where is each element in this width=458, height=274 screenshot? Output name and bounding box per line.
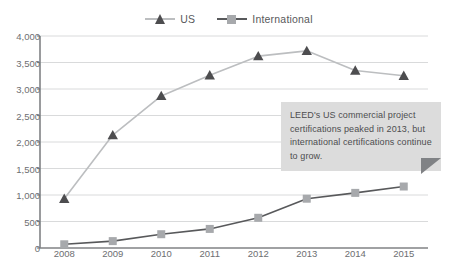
line-chart: US International 05001,0001,5002,0002,50… xyxy=(0,0,458,274)
data-point-marker xyxy=(156,91,166,100)
y-tick-label: 2,000 xyxy=(4,137,40,148)
x-tick-label: 2015 xyxy=(384,248,424,259)
annotation-callout-tail-icon xyxy=(421,158,441,174)
data-point-marker xyxy=(206,225,214,233)
data-point-marker xyxy=(400,183,408,191)
y-tick-label: 2,500 xyxy=(4,110,40,121)
x-tick-label: 2008 xyxy=(44,248,84,259)
annotation-callout-text: LEED's US commercial project certificati… xyxy=(290,109,432,163)
data-point-marker xyxy=(350,65,360,74)
x-tick-label: 2009 xyxy=(93,248,133,259)
y-tick-label: 1,000 xyxy=(4,190,40,201)
y-tick-label: 4,000 xyxy=(4,31,40,42)
x-axis: 20082009201020112012201320142015 xyxy=(0,248,458,268)
y-tick-label: 3,000 xyxy=(4,84,40,95)
data-point-marker xyxy=(109,237,117,245)
x-tick-label: 2010 xyxy=(141,248,181,259)
data-point-marker xyxy=(205,70,215,79)
y-axis: 05001,0001,5002,0002,5003,0003,5004,000 xyxy=(0,0,40,274)
data-point-marker xyxy=(303,195,311,203)
data-point-marker xyxy=(302,46,312,55)
y-tick-label: 500 xyxy=(4,216,40,227)
x-tick-label: 2012 xyxy=(238,248,278,259)
y-tick-label: 3,500 xyxy=(4,57,40,68)
x-tick-label: 2013 xyxy=(287,248,327,259)
data-point-marker xyxy=(254,214,262,222)
data-point-marker xyxy=(351,189,359,197)
x-tick-label: 2014 xyxy=(335,248,375,259)
y-tick-label: 1,500 xyxy=(4,163,40,174)
data-point-marker xyxy=(157,230,165,238)
x-tick-label: 2011 xyxy=(190,248,230,259)
annotation-callout: LEED's US commercial project certificati… xyxy=(281,102,441,171)
